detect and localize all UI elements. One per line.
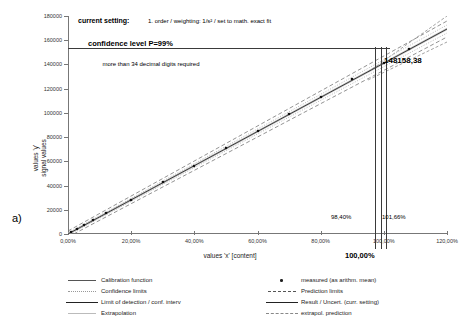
legend-item[interactable]: Prediction limits [266,286,456,296]
legend-key-dot-marker-icon [266,276,298,284]
x-tick-label: 20,00% [122,238,141,244]
y-tick-label: 140000 [44,61,62,67]
decimal-digits-note: more than 34 decimal digits required [86,60,216,68]
x-axis-label: values 'x' [content] [160,252,300,259]
current-setting-label: current setting: [78,17,129,24]
x-tick-label: 100,00% [373,238,395,244]
result-line-axis-stub [68,48,69,49]
legend-item[interactable]: Limit of detection / conf. interv [66,297,256,307]
y-tick-label: 180000 [44,13,62,19]
x-tick-label: 80,00% [311,238,330,244]
legend-label: Prediction limits [301,288,343,294]
panel-label: a) [12,212,22,224]
x-tick-label: 120,00% [436,238,458,244]
legend-label: Extrapolation [101,310,136,316]
y-tick-label: 40000 [47,183,62,189]
x-tick-label: 0,00% [60,238,76,244]
legend-item[interactable]: Extrapolation [66,308,256,318]
legend-label: Limit of detection / conf. interv [101,299,181,305]
legend-label: Result / Uncert. (curr. setting) [301,299,379,305]
upper-uncertainty-label: 101,66% [382,214,406,220]
legend-label: extrapol. prediction [301,310,352,316]
result-value-label: 148158,38 [384,56,422,65]
lower-uncertainty-label: 98,40% [331,214,351,220]
legend-item[interactable]: Confidence limits [66,286,256,296]
y-tick-label: 120000 [44,86,62,92]
y-tick-label: 160000 [44,37,62,43]
chart-figure: values 'y' signal values a) 020000400006… [0,0,463,324]
legend-item[interactable]: Result / Uncert. (curr. setting) [266,297,456,307]
y-tick-label: 80000 [47,134,62,140]
legend-key-dash-dot-icon [266,309,298,317]
legend-item[interactable]: Calibration function [66,275,256,285]
legend-key-solid-thick-icon [266,298,298,306]
legend-label: Calibration function [101,277,152,283]
chart-legend: Calibration functionmeasured (as arithm.… [66,275,456,318]
y-tick-label: 100000 [44,110,62,116]
current-setting-value: 1. order / weighting: 1/s² / set to math… [148,18,271,24]
legend-key-solid-thick-icon [66,298,98,306]
plot-area [68,16,447,234]
legend-label: Confidence limits [101,288,147,294]
uncertainty-lower-vline [375,47,376,249]
x-tick-label: 40,00% [185,238,204,244]
legend-item[interactable]: measured (as arithm. mean) [266,275,456,285]
legend-key-faint-icon [66,309,98,317]
y-axis-label-line1: values 'y' [32,145,39,171]
x-tick-mark [447,231,448,235]
legend-label: measured (as arithm. mean) [301,277,376,283]
y-tick-label: 60000 [47,158,62,164]
prediction-limit-upper [68,21,447,231]
center-percent-label: 100,00% [345,251,375,260]
x-tick-label: 60,00% [248,238,267,244]
confidence-level-text: confidence level P=99% [88,39,173,48]
legend-key-dotted-icon [66,287,98,295]
y-tick-label: 0 [59,231,62,237]
legend-key-solid-thin-icon [66,276,98,284]
legend-item[interactable]: extrapol. prediction [266,308,456,318]
result-horizontal-line [68,48,390,49]
y-axis-label: values 'y' signal values [32,113,48,203]
y-tick-label: 20000 [47,207,62,213]
legend-key-dashed-long-icon [266,287,298,295]
